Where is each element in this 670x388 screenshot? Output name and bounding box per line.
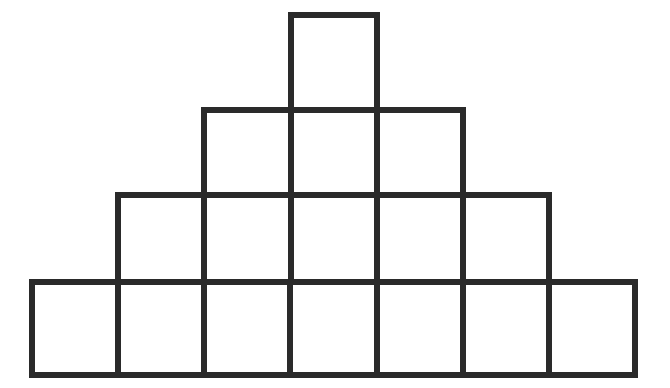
pyramid-square (204, 195, 290, 282)
pyramid-square (377, 195, 463, 282)
square-pyramid-figure: Stepped square pyramid grid figure A sta… (0, 0, 670, 388)
pyramid-square (290, 282, 376, 375)
pyramid-square (118, 282, 204, 375)
pyramid-square (463, 195, 549, 282)
pyramid-square (204, 110, 290, 195)
pyramid-square (204, 282, 290, 375)
pyramid-square (377, 282, 463, 375)
figure-canvas: Stepped square pyramid grid figure A sta… (0, 0, 670, 388)
pyramid-square (463, 282, 549, 375)
pyramid-square (291, 195, 377, 282)
pyramid-square (549, 282, 635, 375)
pyramid-row-bottom-row (32, 282, 635, 375)
pyramid-row-second-row (204, 110, 463, 195)
pyramid-square (291, 110, 377, 195)
pyramid-square (118, 195, 204, 282)
pyramid-square (377, 110, 463, 195)
pyramid-row-third-row (118, 195, 549, 282)
pyramid-row-top-row (291, 15, 377, 110)
pyramid-square (291, 15, 377, 110)
pyramid-square (32, 282, 118, 375)
